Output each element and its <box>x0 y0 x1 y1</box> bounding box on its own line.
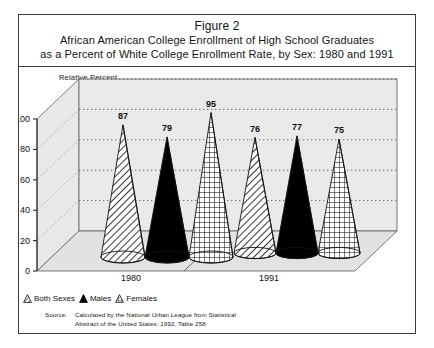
cone-chart-3d: 100 80 60 40 20 0 87 79 <box>19 67 415 281</box>
triangle-crosshatch-icon <box>115 294 124 303</box>
chart-legend: Both Sexes Males <box>23 294 157 303</box>
data-label-1980-both-sexes: 87 <box>118 111 128 121</box>
figure-number: Figure 2 <box>25 19 409 34</box>
source-note: Source:Calculated by the National Urban … <box>45 310 236 328</box>
data-label-1991-both-sexes: 76 <box>250 124 260 134</box>
source-text-2: Abstract of the United States: 1992, Tab… <box>45 319 236 328</box>
plot-area: Relative Percent <box>19 67 415 281</box>
figure-title-line-1: African American College Enrollment of H… <box>25 34 409 48</box>
legend-item-females: Females <box>115 294 157 303</box>
data-label-1980-males: 79 <box>162 123 172 133</box>
legend-label-males: Males <box>90 294 111 303</box>
figure-container: Figure 2 African American College Enroll… <box>18 14 416 334</box>
y-tick-100: 100 <box>19 114 30 124</box>
y-tick-40: 40 <box>20 205 30 215</box>
legend-item-both-sexes: Both Sexes <box>23 294 75 303</box>
x-axis-label-1991: 1991 <box>259 273 279 281</box>
source-text-1: Calculated by the National Urban League … <box>75 311 236 318</box>
y-tick-20: 20 <box>20 236 30 246</box>
triangle-diagonal-hatch-icon <box>23 294 32 303</box>
source-line-1: Source:Calculated by the National Urban … <box>45 310 236 319</box>
figure-title-block: Figure 2 African American College Enroll… <box>19 15 415 67</box>
legend-label-females: Females <box>126 294 157 303</box>
source-label: Source: <box>45 310 75 319</box>
figure-title-line-2: as a Percent of White College Enrollment… <box>25 48 409 62</box>
legend-item-males: Males <box>79 294 111 303</box>
data-label-1980-females: 95 <box>206 99 216 109</box>
y-axis-tick-labels: 100 80 60 40 20 0 <box>19 114 30 276</box>
x-axis-label-1980: 1980 <box>121 273 141 281</box>
y-tick-80: 80 <box>20 144 30 154</box>
data-label-1991-females: 75 <box>334 125 344 135</box>
triangle-solid-black-icon <box>79 294 88 303</box>
y-tick-60: 60 <box>20 175 30 185</box>
legend-label-both-sexes: Both Sexes <box>34 294 75 303</box>
data-label-1991-males: 77 <box>292 122 302 132</box>
y-tick-0: 0 <box>25 266 30 276</box>
